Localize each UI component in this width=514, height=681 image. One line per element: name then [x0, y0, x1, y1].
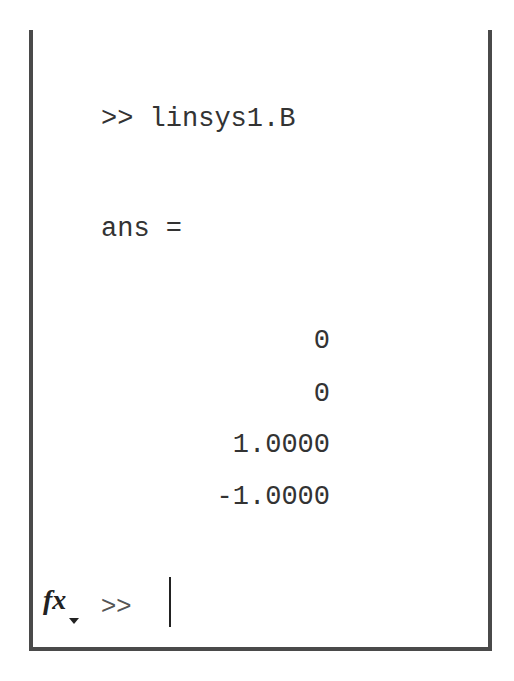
fx-icon[interactable]: fx	[43, 584, 66, 616]
result-value: -1.0000	[217, 482, 330, 512]
input-prompt: >>	[101, 590, 131, 621]
result-value: 0	[314, 379, 330, 409]
result-value: 1.0000	[233, 430, 330, 460]
history-command-line: >> linsys1.B	[101, 104, 295, 134]
result-value: 0	[314, 326, 330, 356]
history-command: linsys1.B	[150, 104, 296, 134]
text-cursor	[169, 577, 171, 627]
result-label: ans =	[101, 214, 182, 244]
result-values: 0 0 1.0000 -1.0000	[100, 326, 330, 526]
history-prompt: >>	[101, 104, 133, 134]
command-input[interactable]	[165, 575, 485, 630]
dropdown-arrow-icon	[69, 618, 79, 624]
